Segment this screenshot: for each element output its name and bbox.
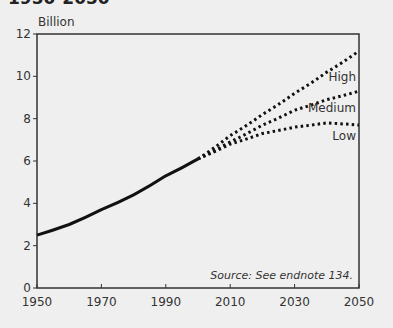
y-tick-label: 12 [16,27,31,41]
y-tick-label: 2 [23,239,31,253]
x-tick-label: 1990 [151,295,182,309]
x-tick-label: 1970 [86,295,117,309]
y-tick-label: 0 [23,281,31,295]
series-label-high: High [328,70,356,84]
x-tick-label: 2030 [279,295,310,309]
source-note: Source: See endnote 134. [210,269,353,282]
series-label-low: Low [332,129,356,143]
x-tick-label: 1950 [22,295,53,309]
plot-frame [37,34,359,288]
series-historical [37,159,198,235]
y-axis-label: Billion [38,15,75,29]
y-tick-label: 10 [16,69,31,83]
x-tick-label: 2050 [344,295,375,309]
y-tick-label: 6 [23,154,31,168]
population-chart: 024681012195019701990201020302050Billion… [0,0,393,328]
y-tick-label: 8 [23,112,31,126]
y-tick-label: 4 [23,196,31,210]
series-label-medium: Medium [308,101,356,115]
x-tick-label: 2010 [215,295,246,309]
